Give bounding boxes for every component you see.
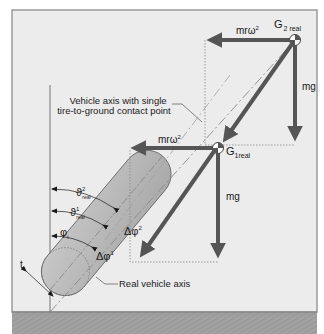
center-of-gravity-g1-icon — [213, 143, 224, 154]
real-vehicle-axis-label: Real vehicle axis — [119, 278, 191, 289]
center-of-gravity-g2-icon — [290, 35, 301, 46]
vehicle-lean-angle-diagram: Vehicle axis with single tire-to-ground … — [0, 0, 324, 334]
tire-width-label: t — [20, 259, 23, 270]
gravity-force-bottom-label: mg — [226, 191, 240, 202]
ground-surface — [12, 312, 317, 334]
gravity-force-top-label: mg — [302, 81, 316, 92]
vehicle-axis-caption-line2: tire-to-ground contact point — [57, 105, 171, 116]
